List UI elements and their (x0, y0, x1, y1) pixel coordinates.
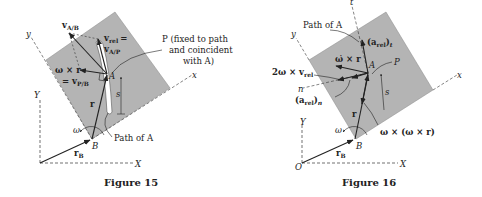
x-axis-rotating (433, 75, 457, 90)
x-label: x (457, 70, 462, 80)
Y-label: Y (300, 117, 307, 127)
svg-text:2ω × vrel: 2ω × vrel (272, 67, 314, 78)
omega-x-r-label: ω × r (55, 65, 81, 75)
point-A-label: A (368, 60, 375, 70)
path-of-A-label: Path of A (303, 20, 343, 30)
y-axis-rotating (296, 38, 309, 60)
s-label: s (116, 89, 121, 99)
svg-text:vA/B: vA/B (61, 20, 79, 31)
y-label: y (25, 29, 31, 39)
svg-text:rB: rB (74, 148, 84, 159)
r-label: r (90, 99, 95, 109)
omega-label: ω (73, 125, 80, 135)
X-label: X (134, 159, 142, 169)
figure-15: vA/B vrel= vA/P P (fixed to path and coi… (25, 12, 233, 188)
rotating-plate (309, 12, 433, 139)
s-label: s (385, 87, 390, 97)
centripetal-label: ω × (ω × r) (380, 127, 435, 137)
P-note-line3: with A) (183, 56, 214, 66)
omega-dot-x-r-label: ω̇ × r (335, 54, 361, 64)
n-label: n (298, 84, 303, 94)
y-label: y (290, 29, 296, 39)
P-note-line1: P (fixed to path (162, 34, 229, 44)
svg-text:rB: rB (336, 148, 346, 159)
svg-text:(arel)n: (arel)n (295, 95, 322, 106)
Y-label: Y (34, 90, 41, 100)
t-label: t (350, 0, 354, 7)
diagram-canvas: vA/B vrel= vA/P P (fixed to path and coi… (0, 0, 482, 197)
figure-15-caption: Figure 15 (104, 177, 158, 188)
point-P-label: P (393, 57, 400, 67)
point-B-label: B (91, 141, 98, 151)
P-note-line2: and coincident (169, 45, 233, 55)
point-B-label: B (355, 141, 362, 151)
x-label: x (192, 70, 197, 80)
path-of-A-label: Path of A (114, 133, 154, 143)
figure-16: t Path of A (arel)t ω̇ × r A P 2ω × vrel… (272, 0, 462, 188)
point-A-label: A (108, 71, 115, 81)
figure-16-caption: Figure 16 (342, 177, 396, 188)
X-label: X (399, 159, 407, 169)
omega-label: ω (335, 125, 342, 135)
r-label: r (352, 109, 357, 119)
origin-O-label: O (295, 162, 302, 172)
